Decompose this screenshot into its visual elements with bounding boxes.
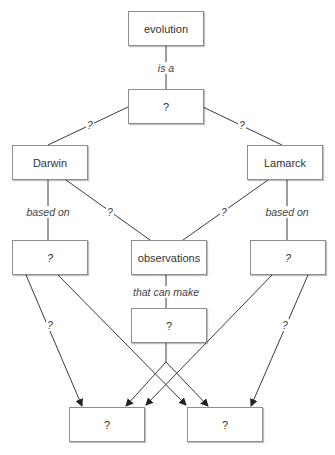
link-qobs-bottomleft bbox=[126, 362, 166, 406]
node-label: Darwin bbox=[33, 157, 67, 169]
node-darwin: Darwin bbox=[12, 145, 88, 180]
node-label: ? bbox=[47, 252, 53, 264]
node-label: ? bbox=[163, 101, 169, 113]
node-q-observations: ? bbox=[131, 308, 207, 343]
node-q-bottom-left: ? bbox=[69, 407, 145, 442]
node-label: observations bbox=[138, 252, 200, 264]
node-label: ? bbox=[104, 419, 110, 431]
node-label: ? bbox=[285, 252, 291, 264]
node-lamarck: Lamarck bbox=[247, 145, 323, 180]
node-q-right: ? bbox=[250, 240, 326, 275]
node-q-left: ? bbox=[12, 240, 88, 275]
node-label: ? bbox=[222, 419, 228, 431]
link-qright-bottomright bbox=[251, 275, 308, 406]
link-label-is-a: is a bbox=[157, 62, 175, 74]
link-label-darwin-based-on: based on bbox=[25, 206, 70, 218]
node-label: ? bbox=[166, 320, 172, 332]
link-label-lamarck-observations: ? bbox=[220, 206, 228, 218]
link-label-qtop-darwin: ? bbox=[86, 119, 94, 131]
link-label-that-can-make: that can make bbox=[132, 286, 200, 298]
node-label: evolution bbox=[144, 23, 188, 35]
link-qleft-bottomleft bbox=[26, 275, 82, 406]
node-q-bottom-right: ? bbox=[187, 407, 263, 442]
link-label-darwin-observations: ? bbox=[106, 206, 114, 218]
node-observations: observations bbox=[131, 240, 207, 275]
link-label-lamarck-based-on: based on bbox=[264, 206, 309, 218]
link-label-qleft-bottomleft: ? bbox=[46, 319, 54, 331]
link-qobs-bottomright bbox=[166, 362, 208, 406]
link-label-qright-bottomright: ? bbox=[281, 319, 289, 331]
node-q-top: ? bbox=[128, 89, 204, 124]
node-evolution: evolution bbox=[128, 11, 204, 46]
link-label-qtop-lamarck: ? bbox=[238, 119, 246, 131]
node-label: Lamarck bbox=[264, 157, 306, 169]
